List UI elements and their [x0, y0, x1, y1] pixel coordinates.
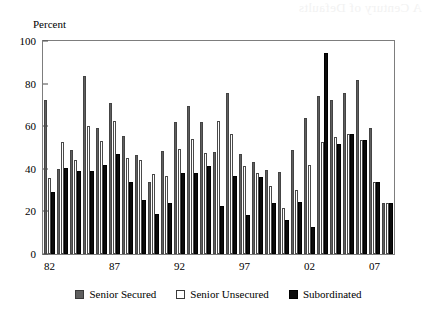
- bar-subordinated-84: [77, 171, 80, 254]
- bar-subordinated-95: [220, 206, 223, 254]
- bar-subordinated-02: [311, 227, 314, 254]
- y-axis-tick-100: 100: [20, 36, 44, 47]
- x-axis-tick-87: 87: [109, 261, 120, 272]
- bar-subordinated-83: [64, 168, 67, 254]
- y-axis-tick-80: 80: [25, 78, 43, 89]
- bar-subordinated-08: [389, 203, 392, 254]
- legend-swatch-icon-subordinated: [289, 290, 298, 299]
- plot-area: 020406080100828792970207: [42, 40, 395, 255]
- y-axis-tickmark-icon: [43, 211, 48, 212]
- y-axis-tick-0: 0: [31, 249, 44, 260]
- x-axis-tick-07: 07: [369, 261, 380, 272]
- bar-subordinated-98: [259, 177, 262, 254]
- legend-label-senior-secured: Senior Secured: [89, 288, 156, 300]
- y-axis-tick-40: 40: [25, 163, 43, 174]
- y-axis-tickmark-icon: [43, 83, 48, 84]
- bar-subordinated-91: [168, 203, 171, 254]
- chart-legend: Senior Secured Senior Unsecured Subordin…: [42, 288, 395, 300]
- bar-subordinated-82: [51, 192, 54, 254]
- bar-series-container: [43, 41, 394, 254]
- x-axis-tick-92: 92: [174, 261, 185, 272]
- bar-subordinated-04: [337, 144, 340, 254]
- bar-subordinated-03: [324, 53, 327, 254]
- legend-item-senior-secured: Senior Secured: [75, 288, 156, 300]
- bar-subordinated-86: [103, 165, 106, 254]
- y-axis-tickmark-icon: [43, 126, 48, 127]
- bar-subordinated-96: [233, 176, 236, 254]
- y-axis-tickmark-icon: [43, 41, 48, 42]
- y-axis-tickmark-icon: [43, 254, 48, 255]
- bar-subordinated-93: [194, 173, 197, 254]
- x-axis-tick-97: 97: [239, 261, 250, 272]
- bar-subordinated-92: [181, 173, 184, 254]
- legend-item-senior-unsecured: Senior Unsecured: [176, 288, 269, 300]
- legend-swatch-icon-senior-unsecured: [176, 290, 185, 299]
- bar-subordinated-88: [129, 182, 132, 254]
- y-axis-label: Percent: [33, 18, 66, 30]
- chart-figure: A Century of Defaults Percent 0204060801…: [0, 0, 422, 319]
- page-bleed-text: A Century of Defaults: [196, 0, 422, 16]
- bar-subordinated-06: [363, 140, 366, 254]
- bar-subordinated-90: [155, 214, 158, 254]
- y-axis-tickmark-icon: [43, 168, 48, 169]
- y-axis-tick-20: 20: [25, 206, 43, 217]
- x-axis-tick-02: 02: [304, 261, 315, 272]
- bar-subordinated-00: [285, 220, 288, 254]
- x-axis-tick-82: 82: [44, 261, 55, 272]
- bar-subordinated-87: [116, 154, 119, 254]
- legend-label-senior-unsecured: Senior Unsecured: [190, 288, 269, 300]
- legend-label-subordinated: Subordinated: [303, 288, 362, 300]
- bar-subordinated-94: [207, 166, 210, 254]
- legend-swatch-icon-senior-secured: [75, 290, 84, 299]
- bar-subordinated-05: [350, 134, 353, 254]
- bar-subordinated-89: [142, 200, 145, 254]
- bar-subordinated-99: [272, 203, 275, 254]
- legend-item-subordinated: Subordinated: [289, 288, 362, 300]
- bar-subordinated-01: [298, 202, 301, 254]
- y-axis-tick-60: 60: [25, 121, 43, 132]
- bar-subordinated-07: [376, 182, 379, 254]
- bar-subordinated-97: [246, 215, 249, 254]
- bar-subordinated-85: [90, 171, 93, 254]
